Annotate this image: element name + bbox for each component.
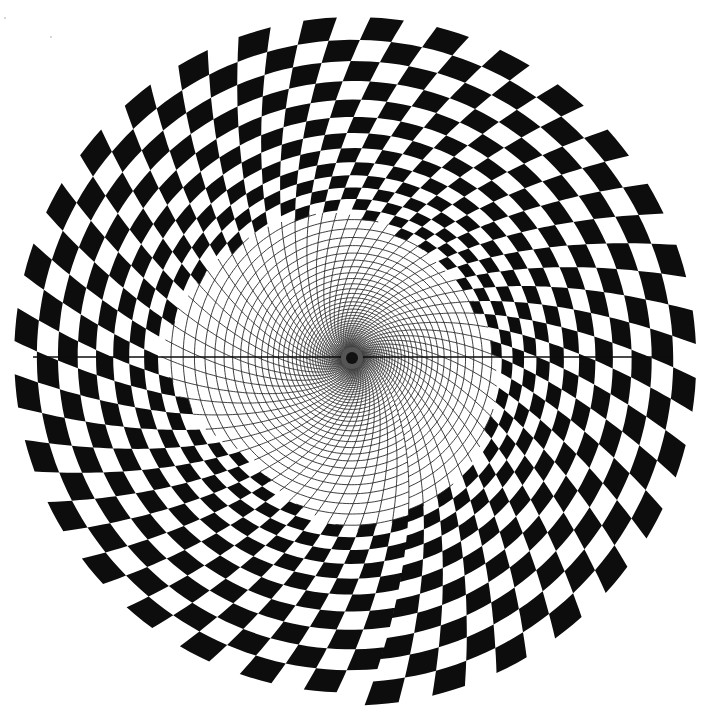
paper-speck [50,36,52,38]
hub-center-dot [346,352,358,364]
paper-speck [4,17,6,19]
spiral-checkerboard-artwork [0,0,709,720]
artwork-canvas [0,0,709,720]
center-hub [341,347,363,369]
